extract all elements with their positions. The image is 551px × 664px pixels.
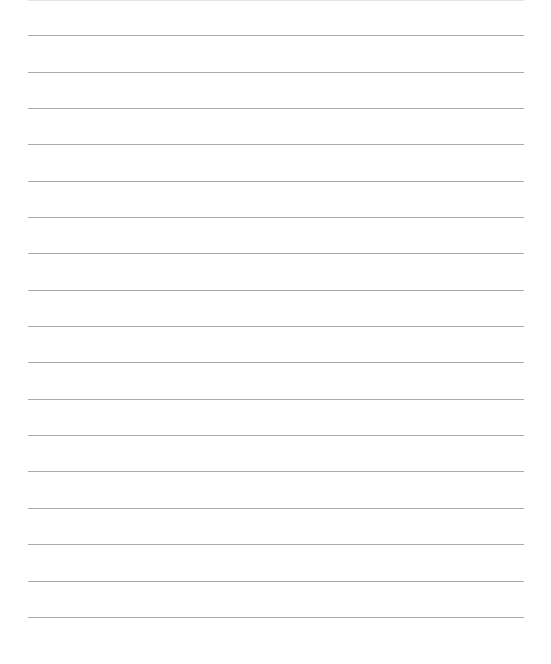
ruled-line: [28, 326, 524, 327]
ruled-line: [28, 508, 524, 509]
ruled-line: [28, 471, 524, 472]
ruled-line: [28, 72, 524, 73]
top-edge-rule: [28, 0, 524, 1]
ruled-line: [28, 362, 524, 363]
ruled-line: [28, 217, 524, 218]
ruled-line: [28, 544, 524, 545]
ruled-line: [28, 581, 524, 582]
ruled-line: [28, 290, 524, 291]
ruled-line: [28, 181, 524, 182]
ruled-line: [28, 617, 524, 618]
ruled-line: [28, 435, 524, 436]
lined-paper-page: [0, 0, 551, 664]
ruled-line: [28, 399, 524, 400]
ruled-line: [28, 253, 524, 254]
ruled-line: [28, 35, 524, 36]
ruled-line: [28, 108, 524, 109]
ruled-line: [28, 144, 524, 145]
